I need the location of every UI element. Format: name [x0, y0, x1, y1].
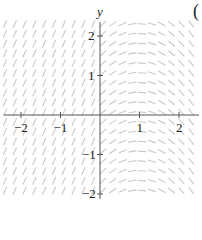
- slope-segment: [179, 139, 185, 145]
- slope-segment: [189, 40, 194, 47]
- slope-segment: [52, 89, 55, 97]
- slope-segment: [189, 70, 194, 77]
- slope-segment: [62, 157, 65, 165]
- slope-segment: [148, 101, 156, 104]
- slope-segment: [179, 41, 185, 47]
- slope-segment: [179, 60, 185, 66]
- slope-segment: [82, 128, 85, 136]
- slope-segment: [3, 89, 6, 97]
- slope-segment: [91, 167, 94, 175]
- slope-segment: [72, 20, 75, 28]
- slope-segment: [168, 139, 175, 144]
- slope-segment: [138, 141, 146, 142]
- slope-segment: [158, 100, 165, 104]
- slope-segment: [179, 99, 185, 105]
- slope-segment: [3, 187, 6, 195]
- slope-segment: [158, 32, 165, 36]
- slope-segment: [189, 128, 194, 135]
- slope-segment: [189, 50, 194, 57]
- slope-segment: [72, 177, 75, 185]
- x-tick-label: 1: [137, 121, 144, 134]
- slope-segment: [158, 42, 165, 46]
- slope-segment: [138, 190, 146, 191]
- slope-segment: [33, 157, 36, 165]
- slope-segment: [23, 167, 26, 175]
- slope-segment: [119, 42, 127, 45]
- slope-segment: [119, 179, 127, 182]
- slope-segment: [138, 24, 146, 25]
- slope-segment: [128, 131, 136, 132]
- slope-segment: [33, 167, 36, 175]
- slope-segment: [33, 89, 36, 97]
- slope-segment: [13, 89, 16, 97]
- slope-segment: [138, 63, 146, 64]
- slope-segment: [128, 43, 136, 44]
- slope-segment: [128, 33, 136, 34]
- slope-segment: [100, 21, 106, 27]
- slope-segment: [148, 150, 156, 153]
- slope-segment: [33, 20, 36, 28]
- slope-segment: [179, 31, 185, 37]
- slope-segment: [189, 60, 194, 67]
- slope-segment: [100, 139, 106, 145]
- slope-segment: [42, 79, 45, 87]
- slope-segment: [109, 31, 116, 36]
- slope-segment: [109, 22, 116, 27]
- slope-segment: [91, 138, 94, 146]
- slope-segment: [148, 160, 156, 163]
- slope-segment: [82, 59, 85, 67]
- slope-segment: [52, 20, 55, 28]
- slope-segment: [82, 138, 85, 146]
- slope-segment: [119, 22, 127, 25]
- slope-segment: [189, 79, 194, 86]
- slope-segment: [168, 90, 175, 95]
- slope-segment: [148, 91, 156, 94]
- slope-segment: [42, 138, 45, 146]
- slope-segment: [23, 148, 26, 156]
- slope-segment: [33, 138, 36, 146]
- slope-segment: [148, 72, 156, 75]
- slope-segment: [42, 177, 45, 185]
- slope-segment: [23, 69, 26, 77]
- slope-segment: [100, 60, 106, 66]
- slope-segment: [109, 80, 116, 85]
- slope-segment: [100, 70, 106, 76]
- slope-segment: [168, 188, 175, 193]
- slope-segment: [72, 187, 75, 195]
- slope-segment: [138, 34, 146, 35]
- slope-segment: [168, 168, 175, 173]
- slope-segment: [168, 129, 175, 134]
- slope-segment: [82, 89, 85, 97]
- y-tick-label: −2: [82, 187, 96, 200]
- slope-segment: [33, 69, 36, 77]
- slope-segment: [52, 69, 55, 77]
- slope-segment: [91, 89, 94, 97]
- slope-segment: [148, 23, 156, 26]
- slope-segment: [109, 110, 116, 115]
- slope-segment: [82, 50, 85, 58]
- slope-segment: [158, 71, 165, 75]
- slope-segment: [168, 110, 175, 115]
- slope-segment: [72, 167, 75, 175]
- slope-segment: [119, 189, 127, 192]
- x-tick-label: 2: [176, 121, 183, 134]
- slope-segment: [168, 70, 175, 75]
- slope-segment: [179, 168, 185, 174]
- slope-segment: [42, 187, 45, 195]
- slope-segment: [23, 30, 26, 38]
- slope-segment: [158, 169, 165, 173]
- slope-segment: [158, 22, 165, 26]
- slope-segment: [62, 40, 65, 48]
- slope-segment: [189, 177, 194, 184]
- slope-segment: [168, 51, 175, 56]
- slope-segment: [158, 91, 165, 95]
- slope-segment: [62, 99, 65, 107]
- slope-segment: [3, 79, 6, 87]
- slope-segment: [138, 92, 146, 93]
- slope-segment: [168, 31, 175, 36]
- slope-segment: [72, 40, 75, 48]
- slope-segment: [13, 148, 16, 156]
- slope-segment: [62, 59, 65, 67]
- slope-segment: [100, 129, 106, 135]
- slope-segment: [91, 99, 94, 107]
